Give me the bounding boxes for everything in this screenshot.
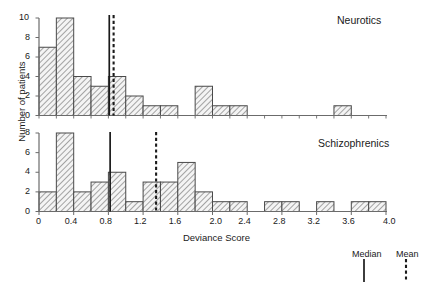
- x-tick-label: 3.6: [342, 216, 355, 226]
- schizophrenics-bar: [160, 182, 177, 211]
- neurotics-bar: [126, 96, 143, 116]
- y-tick-label-top: 4: [25, 71, 30, 81]
- schizophrenics-bar: [56, 133, 73, 212]
- y-tick-label-bottom: 6: [25, 147, 30, 157]
- y-tick-label-top: 0: [25, 110, 30, 120]
- legend-marker-lines: [364, 259, 406, 282]
- schizophrenics-bar: [317, 202, 334, 212]
- x-tick-label: 2.4: [238, 216, 251, 226]
- histogram-figure: Number of patients Deviance Score Neurot…: [0, 0, 433, 286]
- neurotics-bar: [230, 106, 247, 116]
- panel-title-neurotics: Neurotics: [337, 14, 381, 26]
- x-tick-label: 0.4: [65, 216, 78, 226]
- schizophrenics-bar: [213, 202, 230, 212]
- schizophrenics-bar: [74, 192, 91, 212]
- y-tick-label-bottom: 4: [25, 166, 30, 176]
- x-tick-label: 0: [36, 216, 41, 226]
- schizophrenics-bar: [369, 202, 386, 212]
- x-tick-label: 3.2: [308, 216, 321, 226]
- neurotics-bar: [195, 86, 212, 115]
- neurotics-bar: [108, 77, 125, 116]
- legend-mean-label: Mean: [396, 249, 419, 259]
- schizophrenics-bar: [178, 162, 195, 211]
- schizophrenics-bar: [282, 202, 299, 212]
- y-tick-label-bottom: 8: [25, 127, 30, 137]
- schizophrenics-bar: [265, 202, 282, 212]
- neurotics-bar: [143, 106, 160, 116]
- y-tick-label-top: 8: [25, 32, 30, 42]
- schizophrenics-bar: [195, 192, 212, 212]
- legend-median-label: Median: [352, 249, 382, 259]
- x-tick-label: 1.2: [134, 216, 147, 226]
- axes: [36, 18, 388, 215]
- schizophrenics-bar: [91, 182, 108, 211]
- x-tick-label: 2.8: [273, 216, 286, 226]
- x-tick-label: 2.0: [210, 216, 223, 226]
- schizophrenics-bar: [351, 202, 368, 212]
- x-tick-label: 4.0: [383, 216, 396, 226]
- schizophrenics-bar: [230, 202, 247, 212]
- neurotics-bar: [160, 106, 177, 116]
- bars-neurotics: [39, 18, 351, 116]
- panel-title-schizophrenics: Schizophrenics: [318, 137, 389, 149]
- neurotics-bar: [213, 106, 230, 116]
- x-tick-label: 0.8: [99, 216, 112, 226]
- x-tick-label: 1.6: [169, 216, 182, 226]
- schizophrenics-bar: [39, 192, 56, 212]
- neurotics-bar: [39, 47, 56, 115]
- neurotics-bar: [334, 106, 351, 116]
- schizophrenics-bar: [143, 182, 160, 211]
- y-tick-label-bottom: 0: [25, 206, 30, 216]
- schizophrenics-bar: [126, 202, 143, 212]
- neurotics-bar: [56, 18, 73, 116]
- y-tick-label-bottom: 2: [25, 186, 30, 196]
- x-axis-label: Deviance Score: [0, 232, 433, 243]
- y-tick-label-top: 2: [25, 90, 30, 100]
- neurotics-bar: [91, 86, 108, 115]
- y-tick-label-top: 10: [19, 12, 29, 22]
- y-tick-label-top: 6: [25, 51, 30, 61]
- neurotics-bar: [74, 77, 91, 116]
- schizophrenics-bar: [108, 172, 125, 211]
